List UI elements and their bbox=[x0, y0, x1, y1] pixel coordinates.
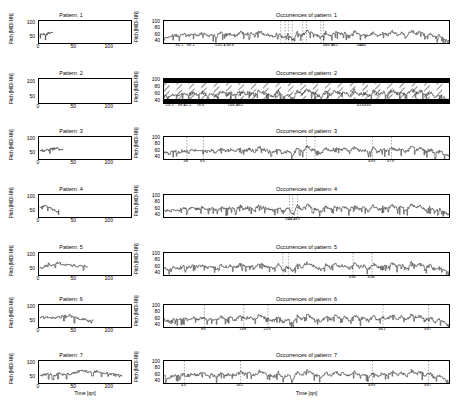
y-tick-label: 100 bbox=[145, 251, 160, 256]
y-tick-label: 100 bbox=[14, 20, 35, 25]
y-tick-label: 100 bbox=[14, 360, 35, 365]
y-tick-label: 40 bbox=[145, 38, 160, 43]
occurrence-plot-area bbox=[163, 78, 450, 104]
occurrence-plot-area bbox=[163, 136, 450, 160]
y-axis-label: Pitch [MIDI-NN] bbox=[9, 14, 14, 44]
y-tick-label: 60 bbox=[145, 91, 160, 96]
y-tick-label: 80 bbox=[145, 84, 160, 89]
y-axis-label: Pitch [MIDI-NN] bbox=[134, 72, 139, 102]
x-tick-label: 0 bbox=[29, 44, 47, 49]
pattern-title: Pattern: 5 bbox=[0, 244, 142, 250]
y-axis-label: Pitch [MIDI-NN] bbox=[9, 354, 14, 384]
occurrence-plot-area bbox=[163, 360, 450, 384]
y-tick-label: 50 bbox=[14, 208, 35, 213]
x-tick-label: 50 bbox=[64, 276, 82, 281]
y-tick-label: 50 bbox=[14, 318, 35, 323]
occurrence-tick-label: 58.1 bbox=[180, 43, 202, 47]
x-tick-label: 50 bbox=[64, 104, 82, 109]
occurrence-tick-label: 439 bbox=[361, 383, 383, 387]
y-axis-label: Pitch [MIDI-NN] bbox=[134, 12, 139, 42]
x-tick-label: 100 bbox=[100, 384, 118, 389]
pattern-title: Pattern: 3 bbox=[0, 128, 142, 134]
pattern-plot-area bbox=[38, 252, 132, 276]
occurrence-title: Occurrences of pattern: 4 bbox=[163, 186, 450, 192]
figure-canvas: Pattern: 1Pitch [MIDI-NN]10050050100Occu… bbox=[0, 0, 459, 420]
y-tick-label: 80 bbox=[145, 365, 160, 370]
occurrence-title: Occurrences of pattern: 3 bbox=[163, 128, 450, 134]
y-tick-label: 80 bbox=[145, 141, 160, 146]
occurrence-tick-label: 85 bbox=[192, 327, 214, 331]
occurrence-tick-label: 281 bbox=[285, 217, 307, 221]
y-axis-label: Pitch [MIDI-NN] bbox=[9, 246, 14, 276]
occurrence-plot-area bbox=[163, 304, 450, 328]
x-tick-label: 100 bbox=[100, 104, 118, 109]
x-tick-label: 100 bbox=[100, 328, 118, 333]
y-tick-label: 60 bbox=[145, 32, 160, 37]
occurrence-tick-label: 78.6 bbox=[189, 103, 211, 107]
y-axis-label: Pitch [MIDI-NN] bbox=[134, 128, 139, 158]
y-tick-label: 40 bbox=[145, 378, 160, 383]
occurrence-tick-label: 557 bbox=[417, 327, 439, 331]
occurrence-title: Occurrences of pattern: 1 bbox=[163, 12, 450, 18]
pattern-plot-area bbox=[38, 194, 132, 218]
y-tick-label: 50 bbox=[14, 94, 35, 99]
y-tick-label: 80 bbox=[145, 199, 160, 204]
y-tick-label: 60 bbox=[145, 372, 160, 377]
x-tick-label: 50 bbox=[64, 384, 82, 389]
x-tick-label: 0 bbox=[29, 218, 47, 223]
occurrence-title: Occurrences of pattern: 5 bbox=[163, 244, 450, 250]
y-axis-label: Pitch [MIDI-NN] bbox=[134, 296, 139, 326]
y-tick-label: 50 bbox=[14, 34, 35, 39]
y-tick-label: 100 bbox=[145, 135, 160, 140]
occurrence-tick-label: 83 bbox=[191, 159, 213, 163]
y-tick-label: 50 bbox=[14, 374, 35, 379]
x-tick-label: 100 bbox=[100, 44, 118, 49]
x-tick-label: 100 bbox=[100, 276, 118, 281]
occurrence-title: Occurrences of pattern: 6 bbox=[163, 296, 450, 302]
pattern-title: Pattern: 7 bbox=[0, 352, 142, 358]
occurrence-tick-label: 557 bbox=[417, 383, 439, 387]
y-tick-label: 100 bbox=[145, 77, 160, 82]
y-tick-label: 40 bbox=[145, 154, 160, 159]
x-tick-label: 50 bbox=[64, 218, 82, 223]
plot-row: Pattern: 1Pitch [MIDI-NN]10050050100Occu… bbox=[0, 12, 459, 74]
pattern-title: Pattern: 2 bbox=[0, 70, 142, 76]
x-tick-label: 50 bbox=[64, 44, 82, 49]
occurrence-tick-label: 479 bbox=[380, 159, 402, 163]
pattern-plot-area bbox=[38, 304, 132, 328]
x-tick-label: 0 bbox=[29, 384, 47, 389]
occurrence-tick-label: 461 bbox=[371, 327, 393, 331]
y-tick-label: 80 bbox=[145, 25, 160, 30]
y-tick-label: 80 bbox=[145, 309, 160, 314]
x-axis-label: Time [qn] bbox=[163, 390, 450, 396]
y-tick-label: 100 bbox=[14, 194, 35, 199]
pattern-title: Pattern: 1 bbox=[0, 12, 142, 18]
y-tick-label: 50 bbox=[14, 150, 35, 155]
pattern-title: Pattern: 6 bbox=[0, 296, 142, 302]
y-tick-label: 40 bbox=[145, 212, 160, 217]
x-tick-label: 0 bbox=[29, 160, 47, 165]
y-axis-label: Pitch [MIDI-NN] bbox=[9, 130, 14, 160]
y-axis-label: Pitch [MIDI-NN] bbox=[134, 244, 139, 274]
y-axis-label: Pitch [MIDI-NN] bbox=[134, 186, 139, 216]
y-tick-label: 40 bbox=[145, 270, 160, 275]
plot-row: Pattern: 3Pitch [MIDI-NN]10050050100Occu… bbox=[0, 128, 459, 190]
y-tick-label: 100 bbox=[145, 193, 160, 198]
pattern-title: Pattern: 4 bbox=[0, 186, 142, 192]
x-tick-label: 0 bbox=[29, 104, 47, 109]
occurrence-tick-label: 361 bbox=[323, 43, 345, 47]
occurrence-plot-area bbox=[163, 20, 450, 44]
plot-row: Pattern: 2Pitch [MIDI-NN]10050050100Occu… bbox=[0, 70, 459, 134]
y-tick-label: 60 bbox=[145, 148, 160, 153]
pattern-plot-area bbox=[38, 360, 132, 384]
y-tick-label: 80 bbox=[145, 257, 160, 262]
occurrence-tick-label: 43 bbox=[172, 383, 194, 387]
occurrence-title: Occurrences of pattern: 2 bbox=[163, 70, 450, 76]
x-tick-label: 50 bbox=[64, 160, 82, 165]
plot-row: Pattern: 4Pitch [MIDI-NN]10050050100Occu… bbox=[0, 186, 459, 248]
x-tick-label: 0 bbox=[29, 328, 47, 333]
occurrence-tick-label: 420 bbox=[352, 43, 374, 47]
y-tick-label: 100 bbox=[14, 304, 35, 309]
pattern-plot-area bbox=[38, 136, 132, 160]
y-tick-label: 60 bbox=[145, 316, 160, 321]
